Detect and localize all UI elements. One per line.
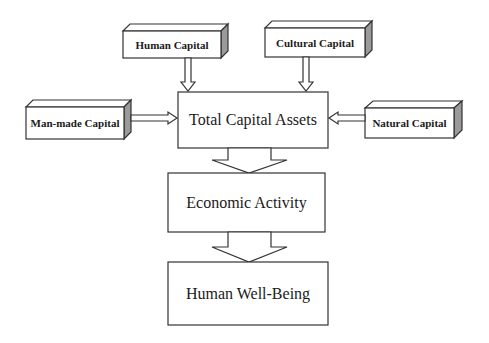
arrow-human-to-total <box>181 58 195 91</box>
man-made-capital-label: Man-made Capital <box>26 107 124 139</box>
arrow-total-to-economic <box>212 148 287 173</box>
economic-activity-label: Economic Activity <box>168 173 325 232</box>
total-capital-assets-label: Total Capital Assets <box>178 92 328 148</box>
arrow-economic-to-wellbeing <box>212 232 287 262</box>
cultural-capital-label: Cultural Capital <box>265 28 365 57</box>
arrow-manmade-to-total <box>131 112 177 124</box>
arrow-natural-to-total <box>329 112 365 124</box>
natural-capital-label: Natural Capital <box>365 108 454 138</box>
arrow-cultural-to-total <box>299 57 313 91</box>
human-capital-label: Human Capital <box>123 31 221 58</box>
human-well-being-label: Human Well-Being <box>168 262 328 325</box>
